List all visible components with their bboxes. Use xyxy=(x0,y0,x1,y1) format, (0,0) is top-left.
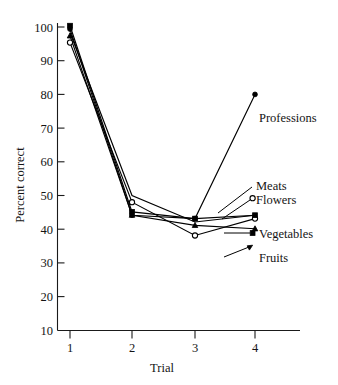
y-tick-label: 10 xyxy=(41,324,54,338)
leader-marker-flowers xyxy=(250,196,255,201)
y-tick-label: 80 xyxy=(41,88,54,102)
line-chart-figure: 100 90 80 70 60 50 40 30 20 10 1 2 3 4 T… xyxy=(0,0,338,385)
y-tick-label: 40 xyxy=(41,223,54,237)
x-tick-label: 2 xyxy=(129,341,135,355)
series-label-professions: Professions xyxy=(259,111,317,125)
x-axis-title: Trial xyxy=(150,361,174,375)
y-axis-title: Percent correct xyxy=(13,147,27,223)
y-tick-label: 30 xyxy=(41,256,54,270)
y-tick-label: 100 xyxy=(34,21,53,35)
y-tick-label: 90 xyxy=(41,54,54,68)
y-tick-label: 60 xyxy=(41,155,54,169)
series-label-flowers: Flowers xyxy=(256,193,296,207)
x-tick-label: 1 xyxy=(67,341,73,355)
x-tick-label: 4 xyxy=(252,341,259,355)
y-tick-label: 50 xyxy=(41,189,54,203)
x-tick-label: 3 xyxy=(192,341,198,355)
series-label-fruits: Fruits xyxy=(259,251,288,265)
y-tick-label: 70 xyxy=(41,122,54,136)
y-tick-label: 20 xyxy=(41,290,54,304)
leader-marker-vegetables xyxy=(250,231,255,236)
series-label-meats: Meats xyxy=(256,179,287,193)
series-label-vegetables: Vegetables xyxy=(259,227,313,241)
